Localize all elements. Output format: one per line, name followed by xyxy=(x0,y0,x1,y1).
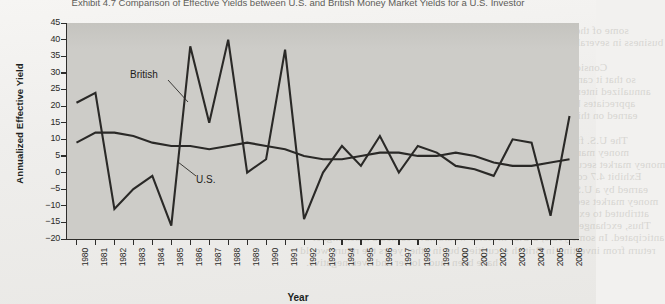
exhibit-title: Exhibit 4.7 Comparison of Effective Yiel… xyxy=(0,0,596,8)
chart-container: 454035302520151050−5−10−15−20 Annualized… xyxy=(0,14,596,304)
series-label-us: U.S. xyxy=(196,174,215,185)
series-line-us xyxy=(76,133,569,166)
leader-line-us xyxy=(178,162,196,176)
series-line-british xyxy=(76,40,569,226)
series-label-british: British xyxy=(130,69,158,80)
series-lines xyxy=(0,14,596,304)
